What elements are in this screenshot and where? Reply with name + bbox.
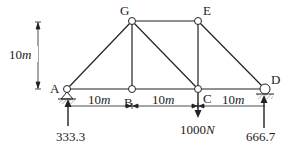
joint-b <box>129 86 136 93</box>
joint-c <box>195 86 202 93</box>
member-ag <box>67 21 132 89</box>
reaction-label-a: 333.3 <box>56 129 85 144</box>
node-label-b: B <box>124 95 133 110</box>
node-label-c: C <box>203 91 212 106</box>
node-label-e: E <box>203 3 211 18</box>
node-label-g: G <box>120 3 129 18</box>
truss-diagram: A B C D G E 10m 10m 10m 10m 1000N 333.3 … <box>0 0 289 155</box>
node-label-d: D <box>271 72 280 87</box>
reaction-label-d: 666.7 <box>246 129 276 144</box>
joint-e <box>195 18 202 25</box>
dim-label-ab: 10m <box>88 92 110 107</box>
load-label-c: 1000N <box>180 122 216 137</box>
member-ed <box>198 21 265 89</box>
joint-d <box>260 84 270 94</box>
truss-joints <box>64 18 271 95</box>
dim-label-height: 10m <box>9 47 31 62</box>
member-gc <box>132 21 198 89</box>
truss-members <box>67 21 265 89</box>
node-label-a: A <box>50 81 60 96</box>
dim-label-bc: 10m <box>152 92 174 107</box>
joint-g <box>129 18 136 25</box>
reaction-arrow-d <box>261 95 268 128</box>
dim-label-cd: 10m <box>222 92 244 107</box>
